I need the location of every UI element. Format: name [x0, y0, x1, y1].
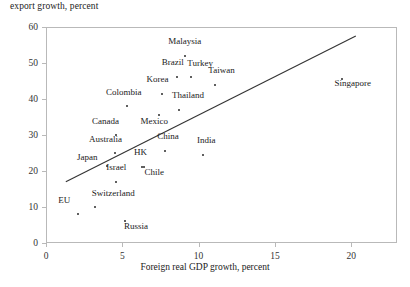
data-point-label: Korea [146, 74, 168, 84]
y-tick-mark [42, 171, 46, 172]
y-tick-mark [42, 99, 46, 100]
x-tick-mark [46, 243, 47, 247]
data-point [94, 206, 96, 208]
data-point-label: Brazil [162, 57, 184, 67]
data-point-label: EU [58, 195, 70, 205]
data-point [115, 134, 117, 136]
y-tick-mark [42, 207, 46, 208]
data-point-label: Colombia [106, 87, 142, 97]
x-tick-mark [275, 243, 276, 247]
x-tick-label: 10 [194, 251, 204, 261]
x-tick-label: 5 [120, 251, 125, 261]
data-point-label: Mexico [141, 116, 169, 126]
data-point-label: Japan [77, 152, 98, 162]
data-point [214, 84, 216, 86]
data-point [164, 150, 166, 152]
data-point-label: Russia [124, 221, 148, 231]
data-point [126, 105, 128, 107]
data-point [114, 152, 116, 154]
x-axis-title: Foreign real GDP growth, percent [0, 262, 410, 272]
data-point-label: India [197, 135, 216, 145]
data-point-label: Switzerland [92, 188, 135, 198]
y-tick-mark [42, 27, 46, 28]
y-tick-label: 50 [8, 58, 38, 68]
x-tick-label: 20 [346, 251, 356, 261]
data-point [178, 109, 180, 111]
data-point-label: Thailand [172, 90, 204, 100]
data-point-label: Chile [145, 167, 165, 177]
data-point-label: Canada [92, 116, 119, 126]
data-point [115, 181, 117, 183]
y-tick-mark [42, 135, 46, 136]
y-tick-label: 10 [8, 202, 38, 212]
y-tick-label: 20 [8, 166, 38, 176]
x-tick-mark [122, 243, 123, 247]
data-point [176, 76, 178, 78]
x-tick-label: 15 [270, 251, 280, 261]
data-point [77, 213, 79, 215]
data-point-label: Taiwan [208, 65, 234, 75]
data-point-label: Israel [106, 162, 126, 172]
data-point [190, 76, 192, 78]
data-point [161, 93, 163, 95]
data-point [106, 165, 108, 167]
y-tick-mark [42, 63, 46, 64]
y-tick-label: 30 [8, 130, 38, 140]
scatter-chart: export growth, percent 0102030405060 051… [0, 0, 410, 287]
data-point [184, 55, 186, 57]
data-point-label: China [157, 131, 179, 141]
y-tick-label: 60 [8, 22, 38, 32]
data-point-label: Malaysia [168, 36, 201, 46]
data-point-label: HK [134, 147, 147, 157]
y-tick-label: 40 [8, 94, 38, 104]
x-tick-label: 0 [44, 251, 49, 261]
data-point [202, 154, 204, 156]
y-tick-label: 0 [8, 238, 38, 248]
x-tick-mark [199, 243, 200, 247]
data-point-label: Singapore [334, 78, 371, 88]
x-tick-mark [351, 243, 352, 247]
